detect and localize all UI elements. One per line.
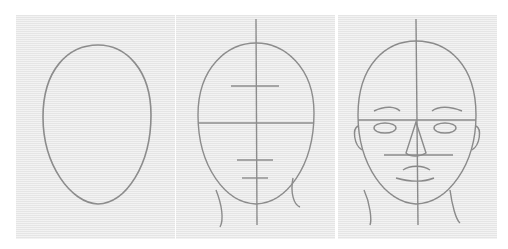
panel-step-2: Head outline with center and guide lines… bbox=[176, 15, 335, 239]
panel-step-3: Face with eyebrows, eyes, nose, lips, ea… bbox=[338, 15, 497, 239]
guidelines-drawing bbox=[176, 15, 335, 239]
panel-step-1: Egg-shaped head outline bbox=[16, 15, 175, 239]
head-outline-drawing bbox=[16, 15, 175, 239]
face-features-drawing bbox=[338, 15, 497, 239]
